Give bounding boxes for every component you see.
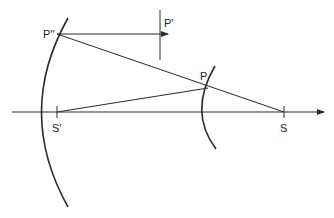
ray-sp-to-p [57,88,208,112]
label-s-prime: S' [52,122,61,134]
label-p: P [200,70,207,82]
label-p-prime: P' [164,17,173,29]
label-p-double-prime: P'' [43,28,55,40]
label-s: S [280,122,287,134]
ray-pdp-to-s [57,34,284,112]
ray-diagram: P'' P' P S' S [0,0,334,218]
